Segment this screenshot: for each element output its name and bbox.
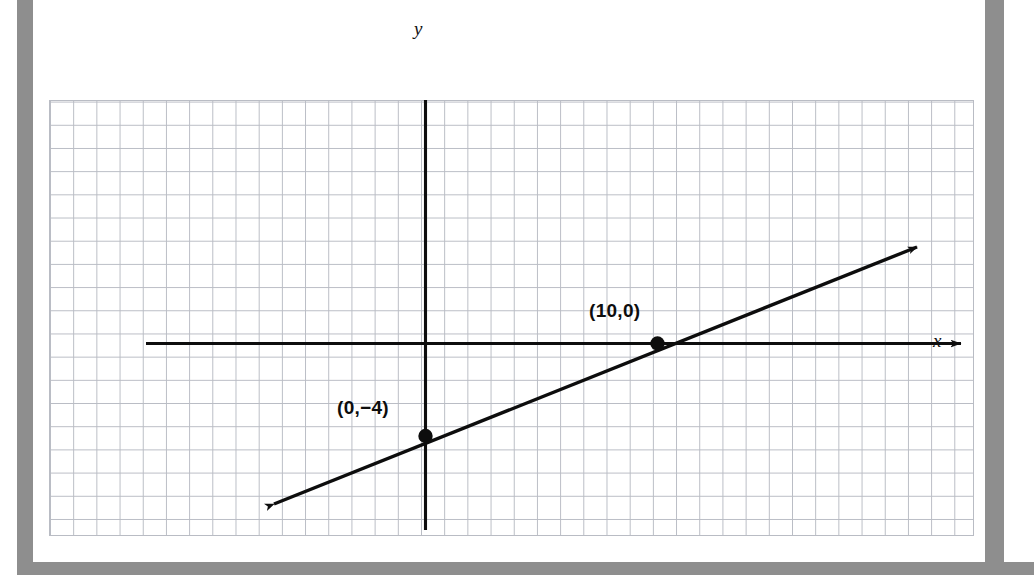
point-label-y-intercept: (0,−4) [337,397,389,419]
figure-page: y x (10,0) (0,−4) [0,0,1034,575]
page-edge-band-left [17,0,33,575]
x-axis-label: x [933,330,941,352]
page-edge-band-right [985,0,1004,563]
coordinate-plane-figure: y x (10,0) (0,−4) [49,100,974,536]
point-marker-y-intercept [418,429,432,443]
page-edge-band-bottom [17,562,1034,575]
graph-overlay [49,100,974,536]
y-axis-label: y [414,18,422,40]
plotted-line [274,247,917,504]
point-label-x-intercept: (10,0) [589,300,640,322]
point-marker-x-intercept [650,336,664,350]
